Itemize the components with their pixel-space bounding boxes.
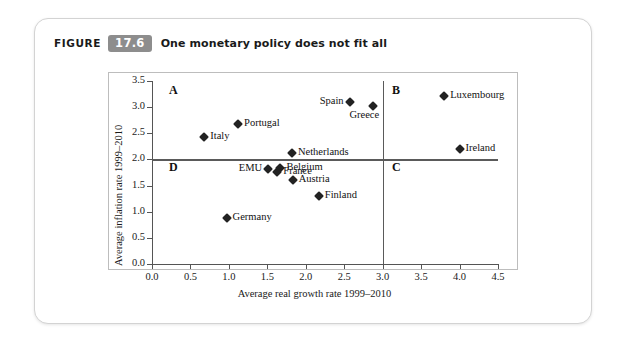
x-tick: [306, 264, 307, 269]
x-tick-label: 2.5: [330, 271, 358, 282]
x-axis-title: Average real growth rate 1999–2010: [0, 288, 629, 299]
x-tick: [267, 264, 268, 269]
data-point-label: Netherlands: [298, 146, 349, 157]
x-axis-line: [152, 264, 498, 265]
data-point[interactable]: [288, 175, 298, 185]
y-tick-label: 3.0: [114, 100, 145, 111]
quadrant-label-b: B: [392, 83, 400, 98]
y-tick: [147, 238, 152, 239]
x-tick: [498, 264, 499, 269]
vertical-reference-line: [383, 81, 385, 264]
y-tick: [147, 159, 152, 160]
data-point[interactable]: [314, 191, 324, 201]
data-point-label: Belgium: [286, 161, 322, 172]
quadrant-label-c: C: [392, 160, 401, 175]
y-tick: [147, 186, 152, 187]
y-tick: [147, 212, 152, 213]
data-point-label: Germany: [233, 211, 272, 222]
x-tick-label: 1.5: [253, 271, 281, 282]
x-tick: [344, 264, 345, 269]
data-point-label: Ireland: [466, 142, 496, 153]
y-tick: [147, 107, 152, 108]
x-tick-label: 4.5: [484, 271, 512, 282]
data-point[interactable]: [345, 97, 355, 107]
x-tick: [383, 264, 384, 269]
x-tick: [229, 264, 230, 269]
data-point-label: Finland: [325, 189, 357, 200]
data-point[interactable]: [439, 91, 449, 101]
quadrant-label-d: D: [169, 160, 178, 175]
y-tick-label: 3.5: [114, 74, 145, 85]
x-tick: [460, 264, 461, 269]
x-tick-label: 2.0: [292, 271, 320, 282]
data-point-label: Austria: [299, 173, 330, 184]
x-tick: [421, 264, 422, 269]
y-axis-line: [152, 81, 153, 264]
data-point[interactable]: [222, 213, 232, 223]
data-point-label: Spain: [320, 95, 344, 106]
data-point[interactable]: [263, 164, 273, 174]
data-point-label: Portugal: [244, 117, 280, 128]
horizontal-reference-line: [152, 159, 498, 161]
x-tick: [152, 264, 153, 269]
data-point[interactable]: [199, 132, 209, 142]
y-tick: [147, 264, 152, 265]
data-point-label: Luxembourg: [450, 89, 504, 100]
quadrant-label-a: A: [169, 83, 178, 98]
x-tick-label: 3.5: [407, 271, 435, 282]
data-point-label: Italy: [210, 130, 229, 141]
data-point[interactable]: [233, 119, 243, 129]
x-tick: [190, 264, 191, 269]
data-point[interactable]: [287, 148, 297, 158]
x-tick-label: 1.0: [215, 271, 243, 282]
x-tick-label: 4.0: [446, 271, 474, 282]
figure-page: FIGURE 17.6 One monetary policy does not…: [0, 0, 629, 342]
data-point-label: EMU: [239, 162, 262, 173]
x-tick-label: 3.0: [369, 271, 397, 282]
data-point-label: Greece: [349, 109, 379, 120]
y-tick: [147, 81, 152, 82]
y-axis-title: Average inflation rate 1999–2010: [113, 125, 124, 266]
x-tick-label: 0.5: [176, 271, 204, 282]
data-point[interactable]: [455, 145, 465, 155]
x-tick-label: 0.0: [138, 271, 166, 282]
y-tick: [147, 133, 152, 134]
